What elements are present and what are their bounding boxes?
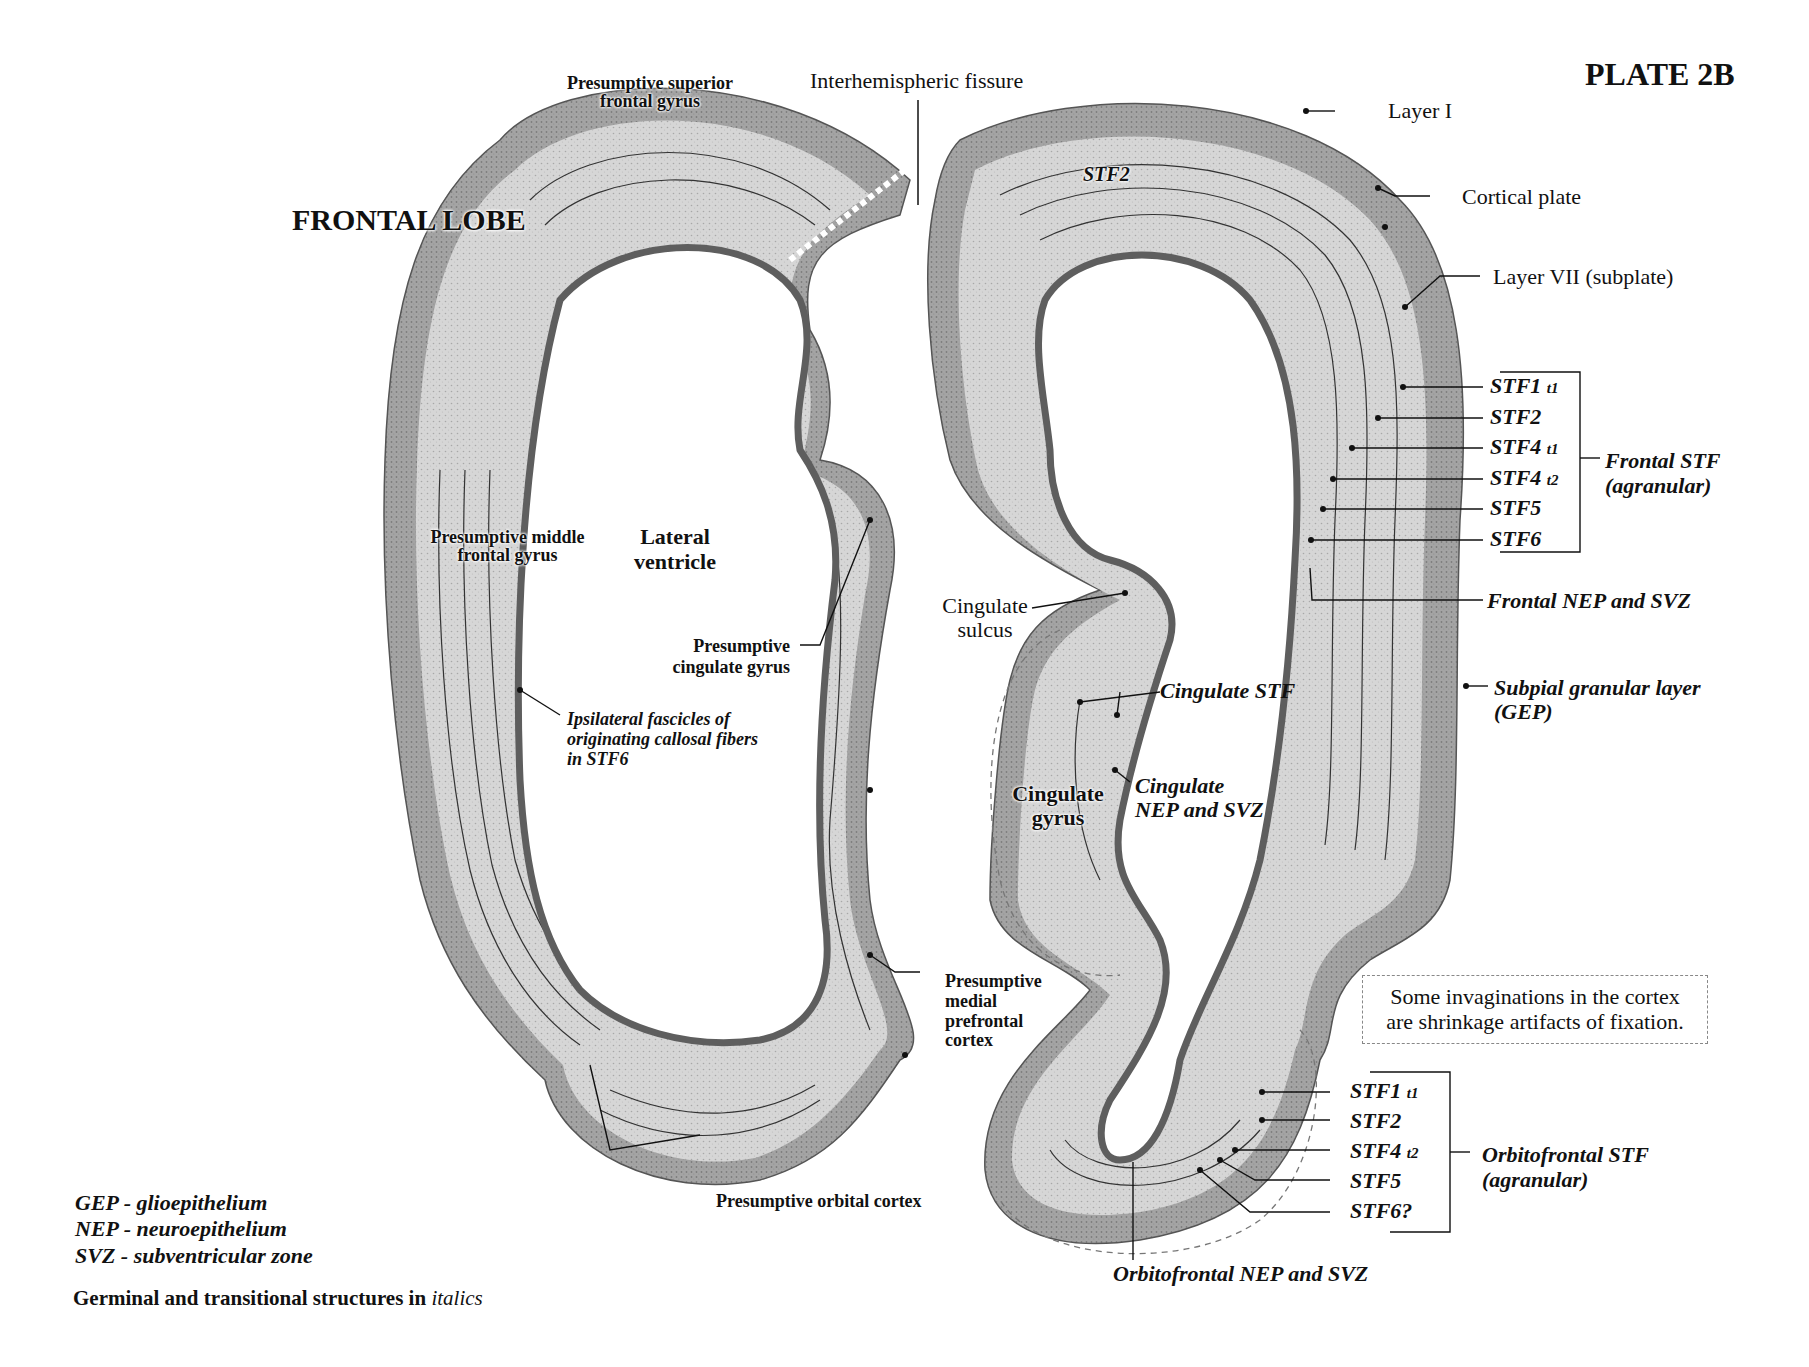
orbitofrontal-stf-item: STF4 t2 — [1350, 1140, 1419, 1170]
label-presumptive-orbital-cortex: Presumptive orbital cortex — [716, 1192, 922, 1210]
label-layer-vii-subplate: Layer VII (subplate) — [1493, 266, 1673, 288]
orbitofrontal-stf-item: STF2 — [1350, 1110, 1419, 1140]
frontal-stf-item: STF4 t2 — [1490, 467, 1559, 498]
label-stf2-inner: STF2 — [1083, 164, 1130, 184]
shrinkage-artifact-note: Some invaginations in the cortex are shr… — [1362, 975, 1708, 1044]
orbitofrontal-stf-item: STF5 — [1350, 1170, 1419, 1200]
orbitofrontal-stf-list: STF1 t1 STF2 STF4 t2 STF5 STF6? — [1350, 1080, 1419, 1230]
plate-2b-diagram: PLATE 2B FRONTAL LOBE Presumptive superi… — [0, 0, 1809, 1367]
label-orbitofrontal-nep-svz: Orbitofrontal NEP and SVZ — [1113, 1263, 1368, 1285]
label-cortical-plate: Cortical plate — [1462, 186, 1581, 208]
left-hemisphere-section — [384, 88, 914, 1184]
label-lateral-ventricle: Lateral ventricle — [620, 524, 730, 575]
label-subpial-granular-layer: Subpial granular layer (GEP) — [1494, 676, 1701, 724]
label-layer-i: Layer I — [1388, 100, 1452, 122]
label-presumptive-medial-prefrontal-cortex: Presumptive medial prefrontal cortex — [945, 972, 1042, 1051]
orbitofrontal-stf-group-title: Orbitofrontal STF (agranular) — [1482, 1142, 1649, 1193]
label-cingulate-nep-svz: Cingulate NEP and SVZ — [1135, 774, 1264, 822]
plate-title: PLATE 2B — [1585, 58, 1735, 90]
label-ipsilateral-fascicles: Ipsilateral fascicles of originating cal… — [567, 710, 758, 769]
orbitofrontal-stf-item: STF6? — [1350, 1200, 1419, 1230]
frontal-stf-item: STF4 t1 — [1490, 436, 1559, 467]
lobe-title: FRONTAL LOBE — [292, 205, 526, 235]
frontal-stf-item: STF2 — [1490, 406, 1559, 437]
legend-item-nep: NEP - neuroepithelium — [75, 1216, 313, 1242]
frontal-stf-item: STF1 t1 — [1490, 375, 1559, 406]
abbreviation-legend: GEP - glioepithelium NEP - neuroepitheli… — [75, 1190, 313, 1269]
label-cingulate-sulcus: Cingulate sulcus — [935, 594, 1035, 642]
label-frontal-nep-svz: Frontal NEP and SVZ — [1487, 590, 1691, 612]
italics-footnote: Germinal and transitional structures in … — [73, 1288, 483, 1309]
frontal-stf-item: STF6 — [1490, 528, 1559, 559]
frontal-stf-group-title: Frontal STF (agranular) — [1605, 448, 1721, 499]
label-middle-frontal-gyrus: Presumptive middle frontal gyrus — [415, 528, 600, 564]
label-cingulate-gyrus: Cingulate gyrus — [998, 782, 1118, 830]
label-superior-frontal-gyrus: Presumptive superior frontal gyrus — [565, 74, 735, 110]
label-cingulate-stf: Cingulate STF — [1160, 680, 1295, 702]
legend-item-gep: GEP - glioepithelium — [75, 1190, 313, 1216]
frontal-stf-item: STF5 — [1490, 497, 1559, 528]
label-presumptive-cingulate-gyrus: Presumptive cingulate gyrus — [650, 636, 790, 677]
orbitofrontal-stf-item: STF1 t1 — [1350, 1080, 1419, 1110]
frontal-stf-list: STF1 t1 STF2 STF4 t1 STF4 t2 STF5 STF6 — [1490, 375, 1559, 558]
label-interhemispheric-fissure: Interhemispheric fissure — [810, 70, 1023, 92]
legend-item-svz: SVZ - subventricular zone — [75, 1243, 313, 1269]
